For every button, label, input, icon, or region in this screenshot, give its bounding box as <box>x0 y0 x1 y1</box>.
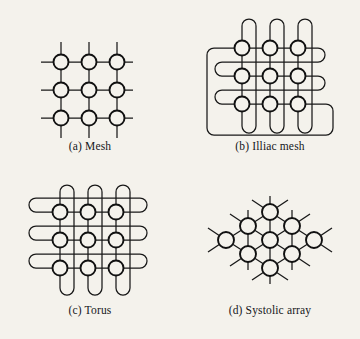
mesh-node <box>82 111 97 126</box>
mesh-node <box>110 111 125 126</box>
torus-nodes <box>53 205 124 276</box>
illiac-node <box>235 69 250 84</box>
torus-node <box>81 261 96 276</box>
torus-node <box>81 205 96 220</box>
mesh-node <box>82 83 97 98</box>
illiac-node <box>263 69 278 84</box>
illiac-mesh-diagram <box>180 0 360 144</box>
figure-network-topologies: (a) Mesh <box>0 0 360 339</box>
illiac-node <box>263 41 278 56</box>
caption-illiac-mesh: (b) Illiac mesh <box>180 140 360 152</box>
panel-torus: (c) Torus <box>0 170 180 339</box>
torus-node <box>53 233 68 248</box>
mesh-node <box>54 55 69 70</box>
torus-node <box>81 233 96 248</box>
mesh-node <box>110 83 125 98</box>
systolic-node <box>284 218 300 234</box>
torus-node <box>109 233 124 248</box>
illiac-nodes <box>235 41 306 112</box>
mesh-node <box>82 55 97 70</box>
torus-node <box>109 205 124 220</box>
systolic-node <box>218 232 234 248</box>
panel-mesh: (a) Mesh <box>0 0 180 169</box>
systolic-node <box>262 204 278 220</box>
caption-mesh: (a) Mesh <box>0 140 180 152</box>
panel-illiac-mesh: (b) Illiac mesh <box>180 0 360 169</box>
mesh-diagram <box>0 0 180 144</box>
mesh-node <box>54 83 69 98</box>
torus-node <box>109 261 124 276</box>
systolic-node <box>306 232 322 248</box>
panel-systolic-array: (d) Systolic array <box>180 170 360 339</box>
illiac-node <box>291 41 306 56</box>
mesh-node <box>110 55 125 70</box>
systolic-node <box>240 218 256 234</box>
illiac-node <box>235 97 250 112</box>
systolic-node <box>240 246 256 262</box>
mesh-node <box>54 111 69 126</box>
torus-node <box>53 205 68 220</box>
torus-diagram <box>0 170 180 314</box>
caption-torus: (c) Torus <box>0 304 180 316</box>
systolic-node <box>262 260 278 276</box>
torus-node <box>53 261 68 276</box>
systolic-array-diagram <box>180 170 360 314</box>
systolic-node <box>262 232 278 248</box>
illiac-node <box>263 97 278 112</box>
caption-systolic-array: (d) Systolic array <box>180 304 360 316</box>
systolic-nodes <box>218 204 322 276</box>
mesh-nodes <box>54 55 125 126</box>
illiac-node <box>291 97 306 112</box>
systolic-node <box>284 246 300 262</box>
illiac-node <box>291 69 306 84</box>
illiac-node <box>235 41 250 56</box>
